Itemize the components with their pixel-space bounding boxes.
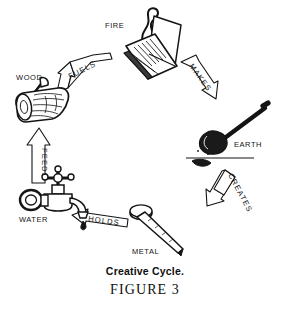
arrow-fuels: FUELS: [57, 53, 112, 92]
node-label-earth: EARTH: [234, 140, 262, 149]
matchbook-flame-icon: [124, 8, 181, 79]
arrow-label-creates: CREATES: [226, 172, 254, 214]
arrow-label-holds: HOLDS: [88, 214, 121, 227]
figure-caption-number: FIGURE 3: [0, 282, 290, 298]
arrow-creates: CREATES: [206, 170, 254, 214]
figure-caption-title: Creative Cycle.: [0, 265, 290, 277]
node-label-fire: FIRE: [105, 21, 124, 30]
node-label-water: WATER: [19, 215, 48, 224]
node-label-wood: WOOD: [16, 73, 42, 82]
shovel-digging-icon: [186, 103, 268, 166]
node-label-metal: METAL: [132, 247, 159, 256]
arrow-makes: MAKES: [181, 55, 218, 99]
